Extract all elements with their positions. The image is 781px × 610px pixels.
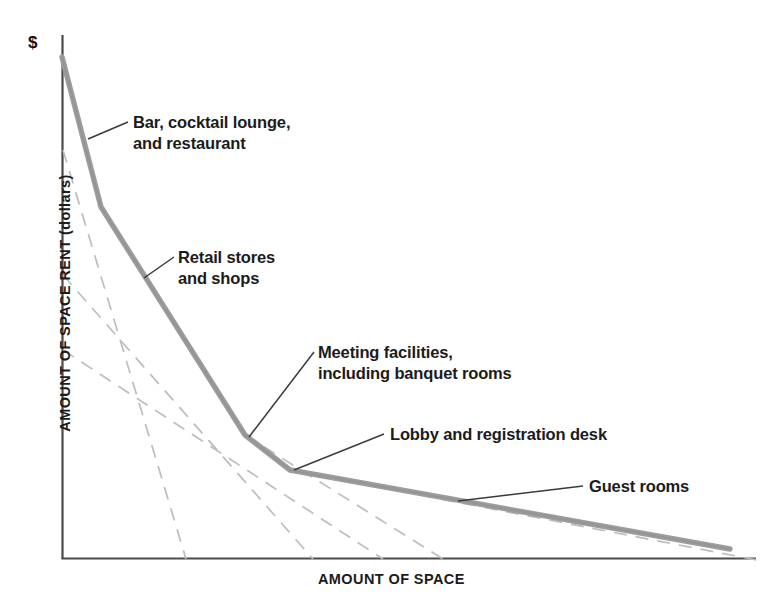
annotation-bar-cocktail-restaurant: Bar, cocktail lounge,and restaurant xyxy=(133,112,290,154)
dashed-line-lobby-registration xyxy=(245,435,443,559)
annotation-lobby-registration-line1: Lobby and registration desk xyxy=(390,425,607,443)
annotation-guest-rooms-line1: Guest rooms xyxy=(589,477,689,495)
leader-line-meeting-facilities xyxy=(249,352,314,437)
x-axis-title: AMOUNT OF SPACE xyxy=(318,571,465,587)
dashed-line-retail-stores-shops xyxy=(63,275,313,559)
annotation-bar-cocktail-restaurant-line1: Bar, cocktail lounge, xyxy=(133,113,290,131)
leader-line-bar-cocktail-restaurant xyxy=(88,122,128,139)
leader-line-guest-rooms xyxy=(458,486,583,501)
annotation-meeting-facilities-line2: including banquet rooms xyxy=(318,364,512,382)
annotation-retail-stores-shops-line2: and shops xyxy=(178,269,259,287)
leader-line-lobby-registration xyxy=(294,434,384,470)
annotation-bar-cocktail-restaurant-line2: and restaurant xyxy=(133,134,246,152)
chart-plot-area xyxy=(0,0,781,610)
annotation-lobby-registration: Lobby and registration desk xyxy=(390,424,607,445)
annotation-guest-rooms: Guest rooms xyxy=(589,476,689,497)
y-axis-title: AMOUNT OF SPACE RENT (dollars) xyxy=(57,143,73,463)
leader-line-retail-stores-shops xyxy=(144,257,174,278)
annotation-retail-stores-shops-line1: Retail stores xyxy=(178,248,275,266)
annotation-meeting-facilities: Meeting facilities,including banquet roo… xyxy=(318,342,512,384)
annotation-meeting-facilities-line1: Meeting facilities, xyxy=(318,343,453,361)
figure-container: $ Bar, cocktail lounge,and restaurant Re… xyxy=(0,0,781,610)
annotation-retail-stores-shops: Retail storesand shops xyxy=(178,247,275,289)
dashed-line-bar-cocktail-restaurant xyxy=(63,150,186,559)
